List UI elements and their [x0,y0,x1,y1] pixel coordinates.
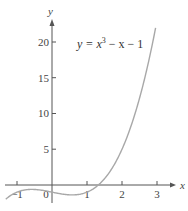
x-tick-label: 3 [154,188,160,200]
function-curve [6,28,156,199]
y-ticks [52,42,56,149]
y-tick-label: 10 [38,107,50,119]
equation-rest: − x − 1 [106,37,144,51]
equation-annotation: y = x3 − x − 1 [76,36,143,51]
y-axis-arrow-icon [50,19,55,26]
x-ticks [17,181,157,185]
x-axis-arrow-icon [170,183,176,188]
x-tick-label: 0 [43,188,49,200]
y-tick-label: 15 [38,72,50,84]
y-tick-label: 5 [44,143,50,155]
y-axis-label: y [47,5,53,17]
x-tick-label: 1 [84,188,90,200]
x-axis-label: x [179,179,185,191]
y-tick-label: 20 [38,36,50,48]
chart: −1 0 1 2 3 5 10 15 20 x y y = x3 − x − 1 [0,0,188,211]
equation-y: y = x [76,37,102,51]
x-tick-label: 2 [119,188,125,200]
